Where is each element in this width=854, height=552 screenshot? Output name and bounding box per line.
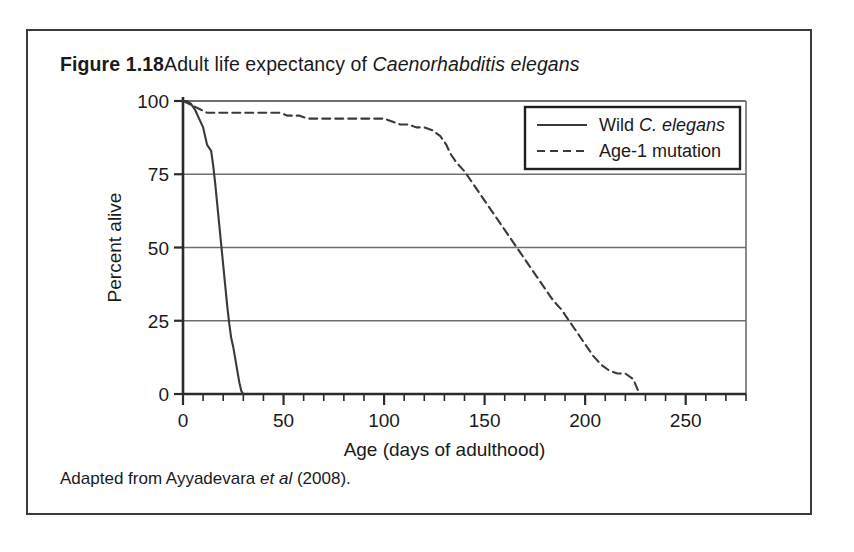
y-tick-label-75: 75 [148,164,169,185]
figure-frame: Figure 1.18Adult life expectancy of Caen… [26,29,812,515]
figure-title-species: Caenorhabditis elegans [373,53,580,75]
legend-label-age1: Age-1 mutation [599,141,721,161]
y-tick-label-0: 0 [158,384,169,405]
figure-title: Figure 1.18Adult life expectancy of Caen… [60,53,580,76]
x-tick-label-250: 250 [670,410,702,431]
x-tick-label-150: 150 [469,410,501,431]
figure-number: Figure 1.18 [60,53,164,75]
figure-page: Figure 1.18Adult life expectancy of Caen… [0,0,854,552]
caption-etal: et al [260,469,292,488]
figure-title-text: Adult life expectancy of [164,53,372,75]
caption-before: Adapted from Ayyadevara [60,469,260,488]
y-tick-label-50: 50 [148,238,169,259]
x-tick-label-50: 50 [273,410,294,431]
x-tick-label-0: 0 [178,410,189,431]
y-tick-label-100: 100 [137,91,169,112]
x-tick-label-200: 200 [569,410,601,431]
survival-curve-chart: 0255075100050100150200250Age (days of ad… [28,89,814,464]
y-axis-title: Percent alive [104,193,125,303]
x-axis-title: Age (days of adulthood) [344,439,546,460]
caption-after: (2008). [292,469,351,488]
figure-source-caption: Adapted from Ayyadevara et al (2008). [60,469,351,489]
y-tick-label-25: 25 [148,311,169,332]
x-tick-label-100: 100 [368,410,400,431]
chart-area: 0255075100050100150200250Age (days of ad… [28,89,814,464]
legend-label-wild: Wild C. elegans [599,115,725,135]
